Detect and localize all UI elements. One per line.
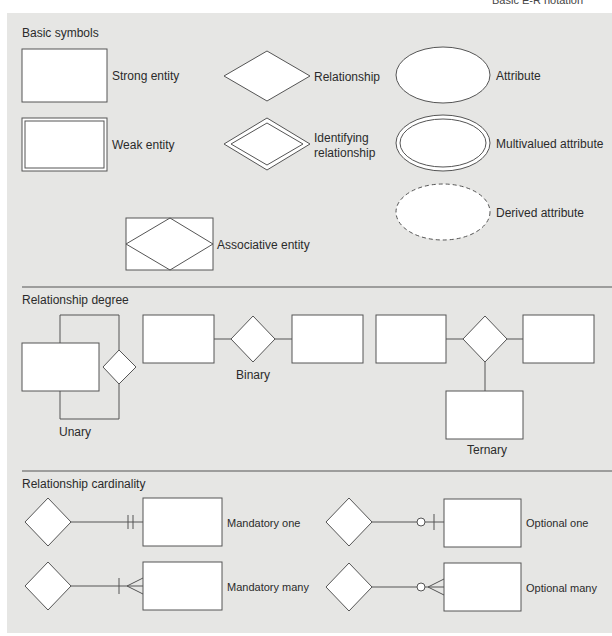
ternary-diagram: [376, 315, 594, 439]
optional-one-label: Optional one: [526, 516, 588, 530]
multivalued-attribute-shape: [396, 115, 490, 171]
derived-attribute-shape: [396, 184, 490, 240]
weak-entity-label: Weak entity: [112, 138, 174, 152]
identifying-relationship-label-2: relationship: [314, 146, 375, 160]
weak-entity-shape: [22, 118, 107, 171]
mandatory-many-label: Mandatory many: [227, 580, 309, 594]
relationship-shape: [224, 51, 310, 101]
derived-attribute-label: Derived attribute: [496, 206, 584, 220]
binary-diagram: [143, 315, 363, 363]
section-title-cardinality: Relationship cardinality: [22, 477, 145, 491]
binary-label: Binary: [236, 368, 270, 382]
mandatory-one-label: Mandatory one: [227, 516, 300, 530]
attribute-shape: [396, 47, 490, 103]
relationship-label: Relationship: [314, 70, 380, 84]
optional-one-diagram: [326, 498, 521, 547]
attribute-label: Attribute: [496, 69, 541, 83]
mandatory-many-diagram: [25, 562, 222, 610]
multivalued-attribute-label: Multivalued attribute: [496, 137, 603, 151]
unary-diagram: [22, 315, 136, 419]
identifying-relationship-label-1: Identifying: [314, 131, 369, 145]
strong-entity-label: Strong entity: [112, 69, 179, 83]
ternary-label: Ternary: [467, 443, 507, 457]
diagram-canvas: [0, 0, 612, 636]
associative-entity-shape: [126, 218, 213, 270]
section-title-basic: Basic symbols: [22, 26, 99, 40]
mandatory-one-diagram: [25, 498, 222, 546]
identifying-relationship-shape: [224, 118, 310, 170]
associative-entity-label: Associative entity: [217, 238, 310, 252]
optional-many-diagram: [326, 563, 521, 611]
unary-label: Unary: [59, 425, 91, 439]
section-title-degree: Relationship degree: [22, 293, 129, 307]
optional-many-label: Optional many: [526, 581, 597, 595]
strong-entity-shape: [22, 49, 107, 102]
